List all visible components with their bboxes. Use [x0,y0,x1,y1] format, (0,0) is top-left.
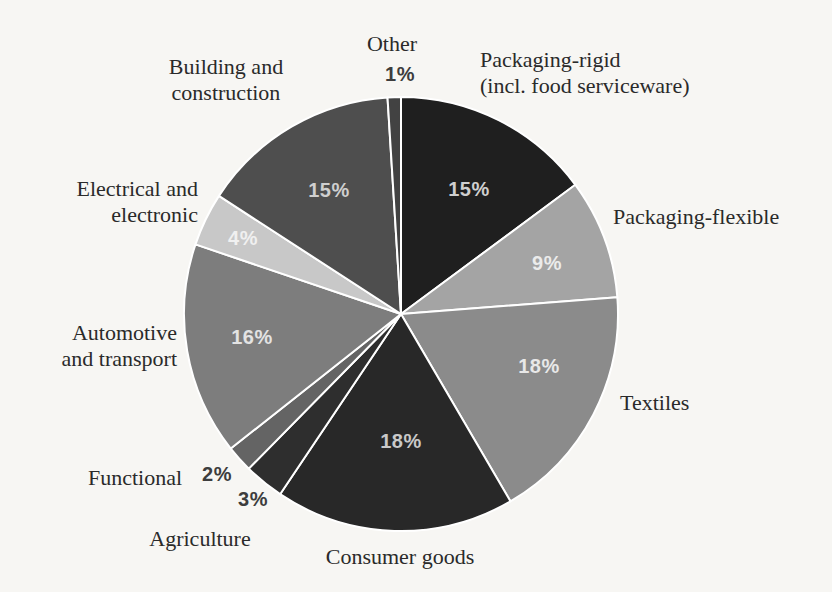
figure-canvas: 15%Packaging-rigid(incl. food servicewar… [0,0,832,592]
category-label-consumer-goods: Consumer goods [326,544,475,570]
pct-label-other: 1% [385,63,415,86]
category-label-other: Other [367,31,417,57]
category-label-packaging-flexible: Packaging-flexible [613,204,779,230]
pct-label-packaging-rigid-incl-food-serviceware: 15% [448,178,490,201]
category-label-electrical-and-electronic: Electrical andelectronic [76,176,198,228]
category-label-textiles: Textiles [620,390,689,416]
category-label-automotive-and-transport: Automotiveand transport [62,320,177,372]
pct-label-functional: 2% [202,463,232,486]
pct-label-agriculture: 3% [238,488,268,511]
pct-label-packaging-flexible: 9% [532,252,562,275]
category-label-packaging-rigid-incl-food-serviceware: Packaging-rigid(incl. food serviceware) [480,47,690,99]
pie-chart [0,0,832,592]
pct-label-consumer-goods: 18% [380,430,422,453]
pct-label-building-and-construction: 15% [308,179,350,202]
category-label-building-and-construction: Building andconstruction [169,54,283,106]
pct-label-electrical-and-electronic: 4% [228,227,258,250]
pct-label-textiles: 18% [518,355,560,378]
category-label-agriculture: Agriculture [149,526,250,552]
category-label-functional: Functional [88,465,182,491]
pct-label-automotive-and-transport: 16% [231,326,273,349]
